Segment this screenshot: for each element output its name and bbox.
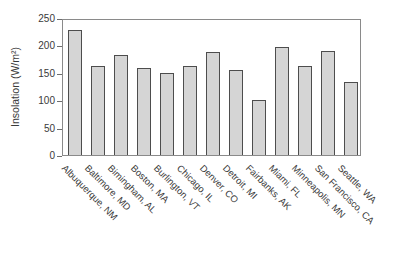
plot-area [62,19,361,156]
bar [160,73,174,155]
bar [206,52,220,155]
y-tick-label: 200 [25,41,55,51]
bar [183,66,197,155]
bar [252,100,266,155]
y-tick-mark [57,156,62,157]
y-tick-label: 50 [25,124,55,134]
y-tick-label: 0 [25,151,55,161]
insolation-bar-chart: Insolation (W/m²) 050100150200250 Albuqu… [0,0,396,253]
bar [298,66,312,155]
y-tick-label: 100 [25,96,55,106]
bar [275,47,289,155]
bar [321,51,335,155]
y-tick-mark [57,74,62,75]
bar [229,70,243,155]
bar [344,82,358,155]
y-tick-mark [57,19,62,20]
y-tick-mark [57,46,62,47]
y-tick-label: 250 [25,14,55,24]
y-tick-mark [57,129,62,130]
bar [114,55,128,155]
y-tick-label: 150 [25,69,55,79]
y-tick-mark [57,101,62,102]
y-axis-title: Insolation (W/m²) [9,47,21,127]
bar [137,68,151,155]
bar [68,30,82,155]
bar [91,66,105,155]
